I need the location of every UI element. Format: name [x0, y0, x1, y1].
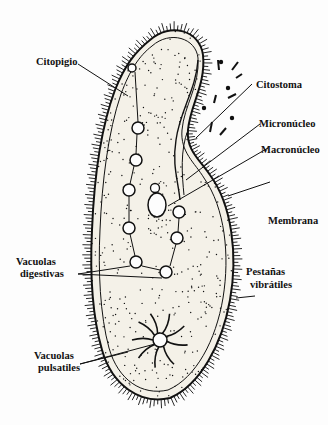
granule: [108, 342, 109, 343]
cilium: [174, 396, 177, 402]
granule: [105, 317, 106, 318]
cilium: [230, 225, 237, 226]
granule: [155, 63, 156, 64]
cilium: [84, 204, 93, 205]
granule: [97, 320, 98, 321]
granule: [217, 201, 218, 202]
granule: [147, 352, 148, 353]
granule: [148, 218, 149, 219]
granule: [206, 236, 207, 237]
granule: [95, 254, 96, 255]
label-vacuolas-pulsatiles-2: pulsatiles: [38, 362, 80, 373]
granule: [105, 182, 106, 183]
cilium: [223, 328, 232, 331]
granule: [206, 306, 207, 307]
granule: [130, 246, 131, 247]
cilium: [87, 174, 96, 175]
cilium: [230, 299, 239, 301]
granule: [108, 194, 109, 195]
granule: [104, 265, 105, 266]
granule: [191, 371, 192, 372]
granule: [103, 262, 104, 263]
cilium: [232, 238, 241, 239]
cilium: [87, 198, 94, 199]
granule: [221, 258, 222, 259]
granule: [150, 233, 151, 234]
granule: [201, 369, 202, 370]
cilium: [220, 187, 228, 191]
granule: [120, 259, 121, 260]
cilium: [190, 28, 194, 34]
granule: [167, 364, 168, 365]
granule: [226, 244, 227, 245]
granule: [129, 96, 130, 97]
granule: [110, 307, 111, 308]
granule: [145, 321, 146, 322]
cilium: [99, 118, 106, 120]
granule: [190, 312, 191, 313]
granule: [181, 336, 182, 337]
granule: [114, 98, 115, 99]
granule: [107, 151, 108, 152]
granule: [169, 374, 170, 375]
cilium: [90, 154, 99, 155]
granule: [104, 195, 105, 196]
granule: [145, 379, 146, 380]
granule: [153, 95, 154, 96]
cilium: [88, 188, 95, 189]
cilium: [192, 111, 201, 114]
granule: [204, 285, 205, 286]
granule: [162, 220, 163, 221]
granule: [194, 70, 195, 71]
granule: [212, 216, 213, 217]
label-vacuolas-pulsatiles-1: Vacuolas: [34, 350, 74, 361]
granule: [215, 186, 216, 187]
cilium: [203, 369, 209, 373]
granule: [106, 213, 107, 214]
granule: [156, 87, 157, 88]
label-membrana: Membrana: [268, 215, 318, 226]
contractile-vacuole: [153, 333, 167, 347]
cilium: [91, 144, 100, 146]
granule: [184, 32, 185, 33]
granule: [193, 365, 194, 366]
granule: [159, 68, 160, 69]
granule: [229, 234, 230, 235]
granule: [197, 350, 198, 351]
granule: [189, 79, 190, 80]
granule: [107, 120, 108, 121]
granule: [112, 151, 113, 152]
granule: [145, 63, 146, 64]
granule: [129, 327, 130, 328]
granule: [186, 139, 187, 140]
cilium: [199, 89, 206, 91]
cilium: [84, 215, 93, 216]
granule: [156, 372, 157, 373]
granule: [197, 266, 198, 267]
granule: [195, 373, 196, 374]
granule: [170, 139, 171, 140]
granule: [139, 68, 140, 69]
granule: [161, 116, 162, 117]
granule: [175, 82, 176, 83]
cilium: [228, 308, 237, 310]
cilium: [232, 235, 239, 236]
cilium: [199, 39, 207, 43]
granule: [194, 290, 195, 291]
granule: [175, 291, 176, 292]
granule: [125, 91, 126, 92]
granule: [129, 384, 130, 385]
granule: [218, 239, 219, 240]
granule: [143, 107, 144, 108]
granule: [118, 152, 119, 153]
granule: [161, 49, 162, 50]
cilium: [171, 398, 175, 406]
cilium: [181, 24, 182, 31]
granule: [157, 137, 158, 138]
label-vacuolas-digestivas-1: Vacuolas: [16, 256, 56, 267]
granule: [216, 293, 217, 294]
cilium: [85, 305, 94, 306]
granule: [200, 301, 201, 302]
granule: [104, 247, 105, 248]
granule: [125, 380, 126, 381]
